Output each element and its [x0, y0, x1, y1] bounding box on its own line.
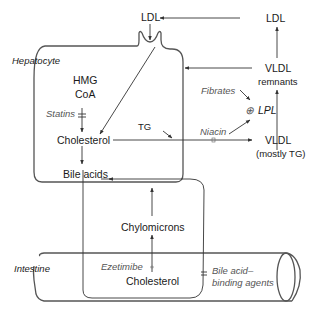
lipid-metabolism-diagram: Hepatocyte Intestine LDL LDL HMG CoA Sta…: [0, 0, 311, 316]
ldl-receptor-label: LDL: [141, 11, 160, 23]
vldl-remnants-label-2: remnants: [258, 76, 298, 87]
bile-binders-label-2: binding agents: [212, 277, 274, 288]
statins-label: Statins: [46, 108, 75, 119]
ezetimibe-label: Ezetimibe: [101, 261, 143, 272]
cholesterol-liver-label: Cholesterol: [57, 134, 110, 146]
cholesterol-gut-label: Cholesterol: [126, 275, 179, 287]
lpl-label: LPL: [258, 104, 277, 116]
intestine-tube-end: [277, 253, 295, 301]
bile-binders-label-1: Bile acid–: [212, 265, 254, 276]
vldl-remnants-label-1: VLDL: [265, 62, 291, 74]
vldl-label-1: VLDL: [265, 134, 291, 146]
tg-label: TG: [138, 121, 151, 132]
coa-label: CoA: [75, 88, 95, 100]
chylomicrons-label: Chylomicrons: [121, 221, 185, 233]
hmg-label: HMG: [73, 74, 98, 86]
niacin-label: Niacin: [200, 126, 226, 137]
ldl-plasma-label: LDL: [266, 12, 285, 24]
fibrates-label: Fibrates: [201, 85, 236, 96]
hepatocyte-label: Hepatocyte: [12, 55, 60, 66]
bile-acids-label: Bile acids: [63, 168, 108, 180]
intestine-label: Intestine: [14, 263, 50, 274]
vldl-label-2: (mostly TG): [256, 148, 305, 159]
lpl-plus-symbol: ⊕: [245, 104, 254, 116]
